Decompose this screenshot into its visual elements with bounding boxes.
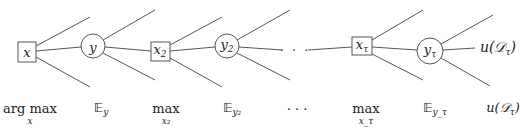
operator-max-xtau: max x_τ — [352, 102, 379, 126]
ellipsis: · · · — [280, 43, 311, 58]
edge — [36, 57, 90, 87]
edge — [441, 58, 490, 86]
decision-tree-graph — [0, 0, 530, 100]
node-label-y2: y2 — [220, 38, 233, 54]
edge — [36, 47, 81, 51]
operator-main: arg max — [3, 102, 57, 115]
operator-sub: y — [103, 107, 108, 117]
node-label-text: y — [89, 40, 96, 55]
node-label-x: x — [23, 46, 30, 59]
operator-max-x2: max x₂ — [152, 102, 179, 126]
node-label-x2: x2 — [153, 43, 166, 59]
edge — [103, 10, 155, 40]
node-label-ytau: yτ — [424, 43, 436, 59]
operator-main: max — [352, 102, 379, 115]
node-label-subscript: τ — [363, 44, 368, 54]
leaf-prefix: u( — [480, 39, 494, 55]
edge — [239, 47, 282, 50]
leaf-utility-label: u(𝒟τ) — [480, 39, 516, 57]
edge — [237, 10, 290, 40]
operator-main: u(𝒟 — [486, 100, 509, 115]
node-label-text: x — [23, 45, 30, 60]
edge — [105, 47, 151, 51]
node-label-xtau: xτ — [356, 38, 368, 54]
operator-expectation-ytau: 𝔼y_τ — [423, 101, 447, 117]
operator-main: max — [152, 102, 179, 115]
operator-argmax-x: arg max x — [3, 102, 57, 126]
edge — [372, 54, 423, 80]
operator-under: x — [3, 117, 57, 126]
edge — [308, 47, 352, 50]
operator-expectation-y2: 𝔼y₂ — [223, 101, 241, 117]
edge — [372, 47, 417, 50]
operator-utility: u(𝒟τ) — [486, 101, 520, 117]
edge — [103, 53, 155, 80]
edge — [170, 58, 222, 87]
operator-under: x₂ — [152, 117, 179, 126]
node-label-subscript: 2 — [228, 44, 234, 54]
edge — [170, 17, 222, 45]
node-label-subscript: 2 — [161, 49, 167, 59]
operator-sub: y_τ — [432, 107, 447, 117]
node-label-subscript: τ — [431, 49, 436, 59]
leaf-set: 𝒟 — [494, 39, 505, 55]
edge — [170, 47, 215, 51]
operator-ellipsis: · · · — [287, 103, 308, 116]
operator-under: x_τ — [352, 117, 379, 126]
operator-expectation-y: 𝔼y — [94, 101, 109, 117]
node-label-y: y — [89, 41, 96, 54]
operator-sub: y₂ — [232, 107, 241, 117]
edge — [443, 48, 475, 50]
edge — [372, 10, 423, 40]
operator-main: · · · — [287, 102, 308, 117]
leaf-suffix: ) — [510, 39, 515, 55]
operator-suffix: ) — [515, 100, 520, 115]
